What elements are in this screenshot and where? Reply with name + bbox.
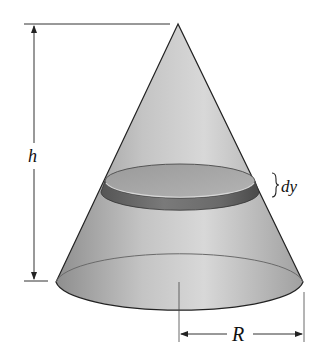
dy-label: dy xyxy=(281,177,298,196)
height-label: h xyxy=(28,146,37,166)
radius-label: R xyxy=(231,323,244,345)
dy-brace-icon xyxy=(272,173,279,197)
radius-arrow-right-icon xyxy=(295,331,303,337)
cone-diagram: h dy R xyxy=(0,0,326,357)
height-arrow-bottom-icon xyxy=(31,272,37,280)
height-arrow-top-icon xyxy=(31,25,37,33)
radius-arrow-left-icon xyxy=(180,331,188,337)
